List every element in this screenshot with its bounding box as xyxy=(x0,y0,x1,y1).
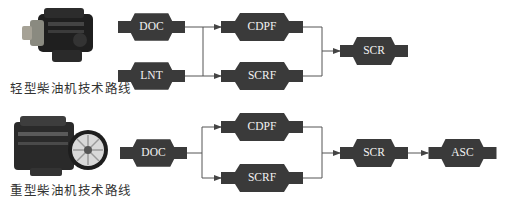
heavy-duty-caption: 重型柴油机技术路线 xyxy=(10,180,132,199)
heavy-cdpf-node: CDPF xyxy=(221,121,303,133)
heavy-scr-node: SCR xyxy=(340,147,408,159)
light-cdpf-node: CDPF xyxy=(221,21,303,33)
light-doc-node: DOC xyxy=(118,21,185,33)
light-scrf-node: SCRF xyxy=(221,70,303,82)
light-lnt-node: LNT xyxy=(118,70,185,82)
diesel-aftertreatment-diagram: 轻型柴油机技术路线 重型柴油机技术路线 DOC LNT CDPF SCRF SC… xyxy=(0,0,506,202)
heavy-scrf-node: SCRF xyxy=(221,172,303,184)
light-duty-caption: 轻型柴油机技术路线 xyxy=(10,78,132,97)
light-duty-engine-icon xyxy=(22,8,93,62)
heavy-doc-node: DOC xyxy=(120,147,187,159)
light-scr-node: SCR xyxy=(340,45,408,57)
heavy-duty-engine-icon xyxy=(14,116,108,176)
heavy-asc-node: ASC xyxy=(428,147,497,159)
